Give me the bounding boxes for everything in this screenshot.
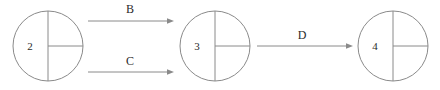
arrowhead-right-icon: [346, 43, 353, 49]
node-3[interactable]: 3: [180, 11, 250, 81]
diagram-canvas: 2 3 4 B C: [0, 0, 440, 90]
node-label: 4: [372, 40, 378, 52]
arrowhead-right-icon: [167, 69, 174, 75]
edge-d[interactable]: D: [257, 28, 353, 49]
node-label: 2: [27, 40, 33, 52]
edge-label: D: [298, 28, 307, 42]
state-transition-diagram: 2 3 4 B C: [0, 0, 440, 90]
arrowhead-right-icon: [167, 18, 174, 24]
edge-label: B: [126, 2, 134, 16]
edge-label: C: [126, 54, 134, 68]
node-4[interactable]: 4: [358, 11, 428, 81]
node-label: 3: [194, 40, 200, 52]
edge-b[interactable]: B: [88, 2, 174, 24]
node-2[interactable]: 2: [13, 11, 83, 81]
edge-c[interactable]: C: [88, 54, 174, 75]
